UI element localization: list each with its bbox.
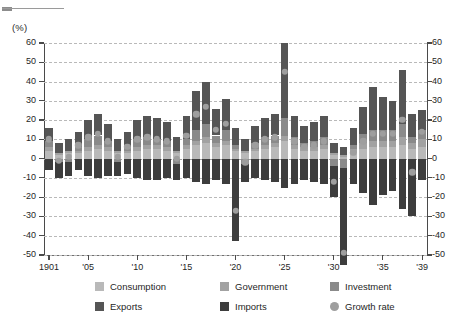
bar-segment: [84, 139, 92, 147]
bar-segment: [340, 159, 348, 169]
y-tick-l--50: [39, 254, 44, 255]
bar-segment: [84, 147, 92, 151]
bar-segment: [369, 87, 377, 129]
legend-item-exports[interactable]: Exports: [95, 301, 142, 312]
bar-segment: [232, 145, 240, 149]
y-tick-label-l-10: 10: [10, 133, 36, 143]
bar-segment: [114, 139, 122, 151]
bar-segment: [359, 107, 367, 134]
bar-segment: [271, 143, 279, 147]
y-tick-label-r-40: 40: [432, 76, 458, 86]
bar-column: [65, 43, 73, 255]
bar-segment: [271, 159, 279, 182]
bar-segment: [232, 149, 240, 151]
bar-segment: [369, 147, 377, 159]
bar-segment: [212, 143, 220, 147]
bar-segment: [261, 159, 269, 180]
y-tick-l-10: [39, 139, 44, 140]
legend-item-imports[interactable]: Imports: [220, 301, 267, 312]
bar-segment: [84, 159, 92, 176]
bar-segment: [291, 145, 299, 149]
bar-segment: [104, 151, 112, 159]
bar-segment: [94, 159, 102, 178]
x-tick-label-1935: '35: [377, 262, 389, 272]
x-tick-label-1910: '10: [131, 262, 143, 272]
legend-label: Growth rate: [345, 301, 395, 312]
bar-segment: [183, 149, 191, 159]
legend-label: Consumption: [110, 281, 166, 292]
bar-column: [183, 43, 191, 255]
y-tick-l--30: [39, 216, 44, 217]
legend-item-investment[interactable]: Investment: [330, 281, 391, 292]
bar-segment: [330, 143, 338, 153]
y-tick-label-r-50: 50: [432, 56, 458, 66]
bar-segment: [212, 159, 220, 180]
bar-segment: [379, 97, 387, 130]
bar-segment: [192, 130, 200, 142]
x-tick-label-1920: '20: [230, 262, 242, 272]
legend-label: Investment: [345, 281, 391, 292]
bar-column: [133, 43, 141, 255]
bar-segment: [55, 153, 63, 155]
bar-segment: [408, 114, 416, 137]
legend-square-icon: [220, 302, 229, 311]
y-tick-l--10: [39, 177, 44, 178]
bar-segment: [232, 151, 240, 159]
x-tick-label-1901: 1901: [39, 262, 59, 272]
bar-column: [163, 43, 171, 255]
bar-segment: [75, 151, 83, 153]
bar-segment: [153, 149, 161, 159]
legend-item-government[interactable]: Government: [220, 281, 287, 292]
bar-segment: [212, 147, 220, 159]
legend-item-consumption[interactable]: Consumption: [95, 281, 166, 292]
bar-column: [281, 43, 289, 255]
x-tick-1905: [88, 255, 89, 260]
y-tick-label-l--30: -30: [10, 210, 36, 220]
bar-segment: [399, 145, 407, 158]
bar-column: [173, 43, 181, 255]
bar-segment: [65, 162, 73, 175]
bar-segment: [340, 147, 348, 155]
bar-segment: [281, 136, 289, 142]
bar-segment: [418, 159, 426, 180]
legend-item-growth-rate[interactable]: Growth rate: [330, 301, 395, 312]
bar-segment: [310, 159, 318, 182]
bar-segment: [222, 145, 230, 158]
y-tick-label-l-0: 0: [10, 153, 36, 163]
bar-segment: [173, 164, 181, 179]
bar-column: [261, 43, 269, 255]
bar-column: [359, 43, 367, 255]
bar-column: [114, 43, 122, 255]
bar-segment: [399, 159, 407, 209]
bar-segment: [143, 159, 151, 180]
bar-segment: [350, 159, 358, 184]
bar-segment: [173, 137, 181, 150]
bar-segment: [241, 139, 249, 151]
y-tick-label-r--40: -40: [432, 230, 458, 240]
bar-segment: [389, 147, 397, 159]
legend-square-icon: [95, 302, 104, 311]
bar-column: [192, 43, 200, 255]
caption-rule: [2, 8, 64, 9]
bar-segment: [45, 159, 53, 171]
y-tick-label-r-0: 0: [432, 153, 458, 163]
y-tick-l-30: [39, 100, 44, 101]
bar-segment: [251, 151, 259, 159]
bar-segment: [94, 145, 102, 149]
bar-segment: [124, 159, 132, 174]
bar-column: [84, 43, 92, 255]
bar-segment: [350, 128, 358, 145]
x-tick-label-1905: '05: [82, 262, 94, 272]
bar-column: [389, 43, 397, 255]
bar-segment: [133, 159, 141, 178]
bar-column: [143, 43, 151, 255]
y-tick-label-l--10: -10: [10, 172, 36, 182]
bar-segment: [369, 141, 377, 147]
bar-segment: [241, 164, 249, 181]
bar-column: [320, 43, 328, 255]
bar-segment: [202, 137, 210, 143]
x-tick-1910: [137, 255, 138, 260]
bar-column: [271, 43, 279, 255]
bar-column: [232, 43, 240, 255]
bar-segment: [300, 159, 308, 180]
